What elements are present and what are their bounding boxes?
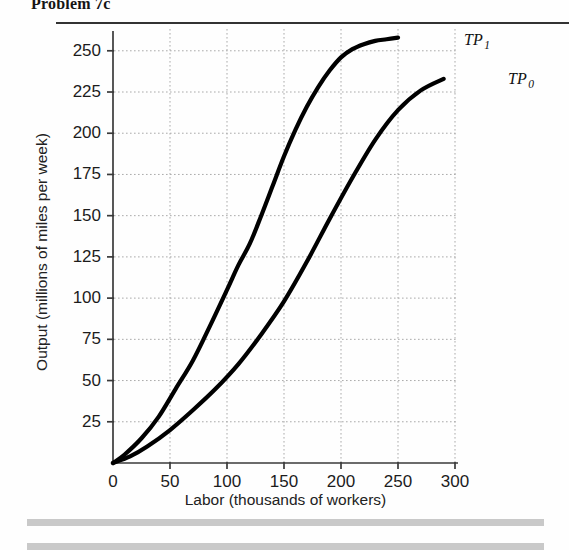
gridlines [114,29,458,462]
footer-bar-upper [27,519,544,526]
x-axis-title: Labor (thousands of workers) [113,491,458,509]
x-axis-tick-label: 150 [264,472,304,492]
y-axis-tick-label: 100 [55,288,101,308]
y-axis-tick-label: 200 [55,123,101,143]
x-axis-tick-label: 250 [378,472,418,492]
y-axis-tick-label: 125 [55,247,101,267]
x-axis-tick-label: 300 [435,472,475,492]
y-axis-tick-label: 250 [55,41,101,61]
x-axis-tick-label: 50 [150,472,190,492]
x-axis-tick-label: 100 [207,472,247,492]
curve-tp1 [113,38,398,463]
y-axis-title: Output (millions of miles per week) [33,42,51,462]
footer-bar-lower [27,543,544,550]
curve-label-tp1-text: TP [464,31,483,48]
curve-label-tp0: TP0 [508,70,534,90]
horizontal-gridlines [114,51,458,422]
curve-tp0 [113,79,444,463]
curve-label-tp0-sub: 0 [527,78,534,90]
curve-label-tp1-sub: 1 [483,39,490,51]
y-axis-tick-label: 25 [55,412,101,432]
x-axis-tick-label: 0 [93,472,133,492]
page-root: Problem 7c 255075100125150175200225250 0… [0,0,569,550]
y-axis-tick-label: 175 [55,164,101,184]
x-axis-tick-label: 200 [321,472,361,492]
y-axis-tick-label: 225 [55,82,101,102]
y-axis-tick-label: 150 [55,206,101,226]
y-axis-tick-label: 50 [55,371,101,391]
curve-label-tp0-text: TP [508,70,527,87]
chart-figure: 255075100125150175200225250 050100150200… [0,0,569,510]
axis-lines [113,31,458,463]
curve-label-tp1: TP1 [464,31,490,51]
y-axis-tick-label: 75 [55,329,101,349]
